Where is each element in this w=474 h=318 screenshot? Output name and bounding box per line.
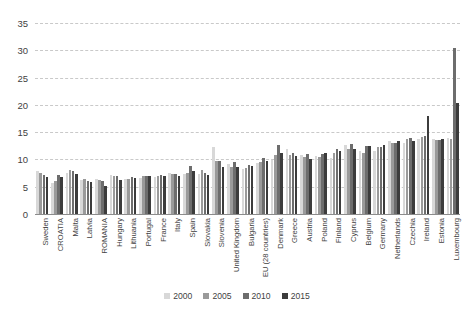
legend-swatch-icon — [203, 293, 209, 299]
bar-group — [182, 23, 197, 214]
bar-group — [240, 23, 255, 214]
x-tick-label: Luxembourg — [445, 216, 460, 286]
bar-group — [108, 23, 123, 214]
x-tick-label: Estonia — [431, 216, 446, 286]
bar-groups — [35, 23, 460, 214]
x-tick-label: France — [152, 216, 167, 286]
x-tick-label: ROMANIA — [94, 216, 109, 286]
x-tick-label: Ireland — [416, 216, 431, 286]
bar-group — [196, 23, 211, 214]
legend-item-2005[interactable]: 2005 — [203, 291, 231, 301]
bar-group — [138, 23, 153, 214]
bar — [309, 159, 312, 214]
bar-group — [211, 23, 226, 214]
bar-group — [445, 23, 460, 214]
bar — [60, 177, 63, 214]
bar — [456, 103, 459, 214]
x-tick-label: Netherlands — [387, 216, 402, 286]
y-tick-label: 30 — [0, 45, 28, 56]
bar-group — [328, 23, 343, 214]
x-tick-label: Bulgaria — [240, 216, 255, 286]
x-tick-label: Portugal — [138, 216, 153, 286]
bar-chart: 05101520253035 SwedenCROATIAMaltaLatviaR… — [0, 0, 474, 318]
x-tick-label: Slovenia — [211, 216, 226, 286]
bar — [222, 167, 225, 214]
x-tick-label: Finland — [328, 216, 343, 286]
bar — [368, 146, 371, 214]
legend-swatch-icon — [164, 293, 170, 299]
legend-label: 2000 — [173, 291, 192, 301]
x-tick-label: Belgium — [357, 216, 372, 286]
bar-group — [226, 23, 241, 214]
bar-group — [79, 23, 94, 214]
bar — [104, 186, 107, 214]
x-tick-label: Austria — [299, 216, 314, 286]
bar-group — [167, 23, 182, 214]
bar-group — [343, 23, 358, 214]
bar — [339, 151, 342, 214]
bar-group — [35, 23, 50, 214]
bar-group — [387, 23, 402, 214]
legend-label: 2010 — [252, 291, 271, 301]
bar — [427, 116, 430, 214]
x-tick-label: United Kingdom — [226, 216, 241, 286]
x-tick-label: Poland — [313, 216, 328, 286]
bar-group — [64, 23, 79, 214]
x-tick-label: Malta — [64, 216, 79, 286]
bar — [163, 176, 166, 214]
bar — [266, 161, 269, 214]
legend-item-2000[interactable]: 2000 — [164, 291, 192, 301]
x-axis-baseline — [35, 214, 460, 215]
bar — [397, 141, 400, 214]
y-tick-label: 15 — [0, 127, 28, 138]
x-tick-label: EU (28 countries) — [255, 216, 270, 286]
bar — [383, 145, 386, 214]
bar — [280, 153, 283, 214]
bar — [251, 166, 254, 214]
y-tick-label: 5 — [0, 181, 28, 192]
legend-label: 2005 — [212, 291, 231, 301]
bar — [353, 149, 356, 214]
x-tick-label: Germany — [372, 216, 387, 286]
legend-item-2010[interactable]: 2010 — [243, 291, 271, 301]
x-tick-label: Latvia — [79, 216, 94, 286]
bar — [192, 171, 195, 214]
x-tick-label: Sweden — [35, 216, 50, 286]
bar-group — [94, 23, 109, 214]
x-tick-label: Spain — [182, 216, 197, 286]
x-tick-label: Italy — [167, 216, 182, 286]
y-tick-label: 35 — [0, 18, 28, 29]
legend-item-2015[interactable]: 2015 — [282, 291, 310, 301]
x-tick-label: Slovakia — [196, 216, 211, 286]
x-tick-label: CROATIA — [50, 216, 65, 286]
x-tick-label: Greece — [284, 216, 299, 286]
x-axis-category-labels: SwedenCROATIAMaltaLatviaROMANIAHungaryLi… — [35, 216, 460, 286]
bar — [178, 176, 181, 214]
bar-group — [284, 23, 299, 214]
bar-group — [50, 23, 65, 214]
bar — [324, 153, 327, 214]
bar-group — [372, 23, 387, 214]
y-tick-label: 10 — [0, 154, 28, 165]
bar — [119, 180, 122, 214]
y-tick-label: 0 — [0, 209, 28, 220]
bar-group — [313, 23, 328, 214]
bar-group — [357, 23, 372, 214]
chart-legend: 2000200520102015 — [0, 291, 474, 301]
bar-group — [299, 23, 314, 214]
bar — [236, 167, 239, 214]
x-tick-label: Cyprus — [343, 216, 358, 286]
bar-group — [270, 23, 285, 214]
bar — [295, 156, 298, 214]
y-tick-label: 25 — [0, 72, 28, 83]
legend-swatch-icon — [243, 293, 249, 299]
bar-group — [255, 23, 270, 214]
bar-group — [431, 23, 446, 214]
bar — [412, 141, 415, 214]
bar — [441, 139, 444, 214]
bar — [148, 176, 151, 214]
bar-group — [123, 23, 138, 214]
bar — [75, 174, 78, 214]
x-tick-label: Lithuania — [123, 216, 138, 286]
bar-group — [401, 23, 416, 214]
